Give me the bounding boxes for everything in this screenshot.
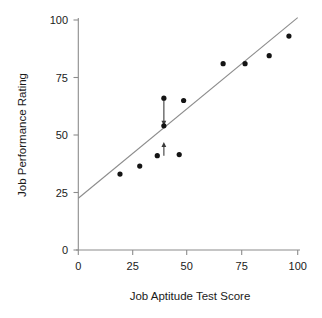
data-point [177,152,182,157]
x-tick-label-50: 50 [181,260,193,272]
x-tick-label-25: 25 [127,260,139,272]
y-tick-label-0: 0 [62,244,68,256]
data-point [137,163,142,168]
y-axis-ticks [74,20,79,250]
regression-line [78,18,297,199]
x-axis-title: Job Aptitude Test Score [130,290,251,302]
arrow-head-icon [161,142,166,147]
data-point [181,98,186,103]
chart-canvas: 100 75 50 25 0 0 25 50 75 100 Job Aptitu… [0,0,322,318]
residual-arrow-above [161,98,166,126]
y-tick-label-25: 25 [56,187,68,199]
x-tick-label-0: 0 [75,260,81,272]
data-point [161,96,166,101]
y-tick-label-75: 75 [56,72,68,84]
data-point [155,153,160,158]
data-point [242,61,247,66]
data-point [286,34,291,39]
x-tick-label-100: 100 [289,260,307,272]
x-tick-label-75: 75 [236,260,248,272]
data-point [267,53,272,58]
data-point [161,123,166,128]
y-axis-title: Job Performance Rating [16,73,28,197]
data-point [117,172,122,177]
data-point [221,61,226,66]
y-tick-label-100: 100 [50,14,68,26]
scatter-plot-figure: 100 75 50 25 0 0 25 50 75 100 Job Aptitu… [0,0,322,318]
data-point-group [117,34,291,177]
y-tick-label-50: 50 [56,129,68,141]
x-axis-ticks [78,250,297,255]
residual-arrow-below [161,142,166,156]
